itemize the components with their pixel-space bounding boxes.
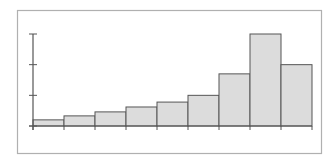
histogram-bar — [126, 107, 157, 126]
histogram-bar — [95, 112, 126, 126]
histogram-bar — [64, 116, 95, 126]
histogram-bar — [188, 95, 219, 126]
histogram-bar — [219, 74, 250, 126]
histogram-chart — [0, 0, 336, 160]
histogram-bar — [281, 65, 312, 126]
histogram-bar — [250, 34, 281, 126]
chart-canvas — [0, 0, 336, 160]
histogram-bar — [33, 120, 64, 126]
bars-group — [33, 34, 312, 126]
histogram-bar — [157, 102, 188, 126]
